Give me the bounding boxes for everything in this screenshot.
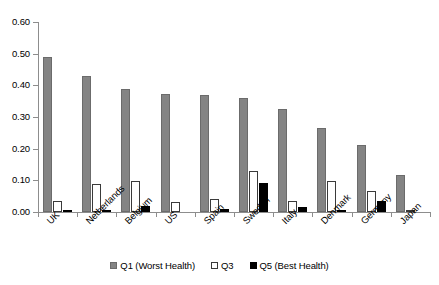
plot-area <box>38 22 430 212</box>
x-axis-tick <box>38 213 39 217</box>
bar-q1 <box>161 94 170 212</box>
bar-q1 <box>357 145 366 212</box>
bar-q1 <box>43 57 52 212</box>
legend-label: Q3 <box>221 261 233 271</box>
bar-q1 <box>278 109 287 212</box>
bar-q5 <box>63 210 72 212</box>
y-axis-tick-label: 0.40 <box>0 80 30 90</box>
legend-label: Q5 (Best Health) <box>260 261 329 271</box>
bar-q1 <box>317 128 326 212</box>
x-axis-tick <box>273 213 274 217</box>
x-axis-tick <box>156 213 157 217</box>
y-axis-tick-label: 0.50 <box>0 49 30 59</box>
legend-swatch-q3 <box>211 262 218 269</box>
legend-label: Q1 (Worst Health) <box>120 261 195 271</box>
legend-item[interactable]: Q1 (Worst Health) <box>110 261 195 271</box>
legend-item[interactable]: Q3 <box>211 261 233 271</box>
y-axis-tick-label: 0.30 <box>0 112 30 122</box>
bar-q1 <box>82 76 91 212</box>
x-axis-tick <box>77 213 78 217</box>
bar-q1 <box>200 95 209 212</box>
y-axis-tick-label: 0.20 <box>0 144 30 154</box>
x-axis-tick <box>195 213 196 217</box>
bar-chart: 0.000.100.200.300.400.500.60 UKNetherlan… <box>0 0 439 285</box>
x-axis-tick <box>391 213 392 217</box>
bar-q1 <box>396 175 405 212</box>
legend-swatch-q1 <box>110 262 117 269</box>
chart-legend: Q1 (Worst Health)Q3Q5 (Best Health) <box>0 261 439 271</box>
legend-swatch-q5 <box>250 262 257 269</box>
y-axis-tick-label: 0.00 <box>0 207 30 217</box>
x-axis-tick <box>116 213 117 217</box>
x-axis-tick <box>352 213 353 217</box>
y-axis-tick-label: 0.10 <box>0 175 30 185</box>
x-axis-tick <box>430 213 431 217</box>
x-axis-tick <box>234 213 235 217</box>
bar-q5 <box>298 207 307 212</box>
y-axis-tick-label: 0.60 <box>0 17 30 27</box>
legend-item[interactable]: Q5 (Best Health) <box>250 261 329 271</box>
x-axis-tick <box>312 213 313 217</box>
bar-q1 <box>239 98 248 212</box>
